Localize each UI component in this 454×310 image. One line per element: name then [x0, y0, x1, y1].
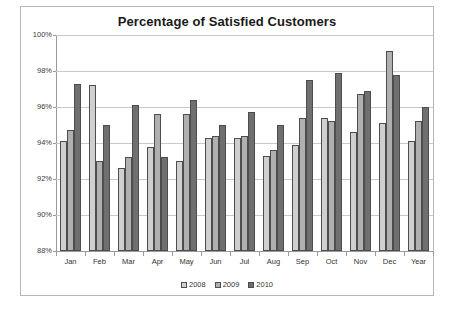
bar-group	[176, 35, 198, 251]
bar[interactable]	[248, 112, 255, 251]
bar[interactable]	[212, 136, 219, 251]
bar[interactable]	[350, 132, 357, 251]
y-axis-tick-label: 92%	[14, 175, 52, 183]
bar[interactable]	[74, 84, 81, 251]
bar[interactable]	[205, 138, 212, 251]
bar[interactable]	[132, 105, 139, 251]
legend-item-label: 2010	[256, 280, 273, 289]
bar[interactable]	[125, 157, 132, 251]
x-axis-tick-mark	[85, 252, 86, 256]
bar[interactable]	[270, 150, 277, 251]
legend-item-2008[interactable]: 2008	[181, 280, 206, 289]
bar-group	[118, 35, 140, 251]
bar[interactable]	[306, 80, 313, 251]
x-axis-tick-label: Jul	[230, 258, 259, 266]
bar[interactable]	[277, 125, 284, 251]
bar[interactable]	[263, 156, 270, 251]
legend-item-label: 2008	[189, 280, 206, 289]
bar-group	[379, 35, 401, 251]
bar[interactable]	[190, 100, 197, 251]
x-axis-tick-mark	[404, 252, 405, 256]
bar[interactable]	[154, 114, 161, 251]
x-axis-tick-label: Apr	[143, 258, 172, 266]
x-axis-tick-label: Nov	[346, 258, 375, 266]
y-axis-tick-label: 88%	[14, 247, 52, 255]
bar[interactable]	[89, 85, 96, 251]
bar-group	[321, 35, 343, 251]
bar[interactable]	[415, 121, 422, 251]
bar[interactable]	[364, 91, 371, 251]
bar-group	[292, 35, 314, 251]
bar-group	[89, 35, 111, 251]
y-axis-tick-label: 90%	[14, 211, 52, 219]
bar-group	[147, 35, 169, 251]
bar[interactable]	[386, 51, 393, 251]
y-axis-tick-label: 94%	[14, 139, 52, 147]
bar[interactable]	[379, 123, 386, 251]
bar[interactable]	[241, 136, 248, 251]
x-axis-tick-mark	[288, 252, 289, 256]
bar[interactable]	[408, 141, 415, 251]
x-axis-tick-mark	[172, 252, 173, 256]
x-axis-tick-mark	[317, 252, 318, 256]
bar-group	[60, 35, 82, 251]
x-axis-tick-label: Jan	[56, 258, 85, 266]
bar[interactable]	[96, 161, 103, 251]
bar[interactable]	[219, 125, 226, 251]
x-axis-tick-label: Aug	[259, 258, 288, 266]
bar[interactable]	[103, 125, 110, 251]
x-axis-tick-label: Mar	[114, 258, 143, 266]
bar[interactable]	[393, 75, 400, 251]
bar[interactable]	[60, 141, 67, 251]
bar-group	[350, 35, 372, 251]
x-axis-tick-mark	[375, 252, 376, 256]
bar[interactable]	[321, 118, 328, 251]
bar[interactable]	[292, 145, 299, 251]
bar[interactable]	[183, 114, 190, 251]
y-axis-tick-label: 100%	[14, 31, 52, 39]
x-axis-tick-mark	[56, 252, 57, 256]
x-axis-tick-mark	[259, 252, 260, 256]
legend-swatch-icon	[215, 282, 221, 288]
x-axis-tick-mark	[346, 252, 347, 256]
plot-area	[56, 35, 433, 251]
y-axis-tick-label: 98%	[14, 67, 52, 75]
legend-item-2009[interactable]: 2009	[215, 280, 240, 289]
x-axis-tick-label: Oct	[317, 258, 346, 266]
chart-legend: 200820092010	[0, 280, 454, 289]
x-axis-tick-mark	[230, 252, 231, 256]
legend-swatch-icon	[248, 282, 254, 288]
bar-group	[263, 35, 285, 251]
x-axis-tick-mark	[114, 252, 115, 256]
bar[interactable]	[176, 161, 183, 251]
bar-group	[205, 35, 227, 251]
x-axis-tick-mark	[201, 252, 202, 256]
gridline	[56, 251, 433, 252]
bar[interactable]	[335, 73, 342, 251]
x-axis-tick-label: Dec	[375, 258, 404, 266]
legend-swatch-icon	[181, 282, 187, 288]
x-axis-tick-label: Sep	[288, 258, 317, 266]
x-axis-tick-label: Jun	[201, 258, 230, 266]
bar[interactable]	[67, 130, 74, 251]
bar-group	[408, 35, 430, 251]
bar[interactable]	[147, 147, 154, 251]
bar[interactable]	[357, 94, 364, 251]
bar[interactable]	[161, 157, 168, 251]
legend-item-label: 2009	[223, 280, 240, 289]
y-axis-tick-label: 96%	[14, 103, 52, 111]
bar[interactable]	[422, 107, 429, 251]
legend-item-2010[interactable]: 2010	[248, 280, 273, 289]
bar[interactable]	[299, 118, 306, 251]
x-axis-tick-mark	[433, 252, 434, 256]
chart-title: Percentage of Satisfied Customers	[21, 14, 433, 29]
x-axis-tick-label: May	[172, 258, 201, 266]
bar-group	[234, 35, 256, 251]
bar[interactable]	[118, 168, 125, 251]
bar[interactable]	[234, 138, 241, 251]
x-axis-tick-mark	[143, 252, 144, 256]
x-axis-tick-label: Year	[404, 258, 433, 266]
x-axis-tick-label: Feb	[85, 258, 114, 266]
bar[interactable]	[328, 121, 335, 251]
